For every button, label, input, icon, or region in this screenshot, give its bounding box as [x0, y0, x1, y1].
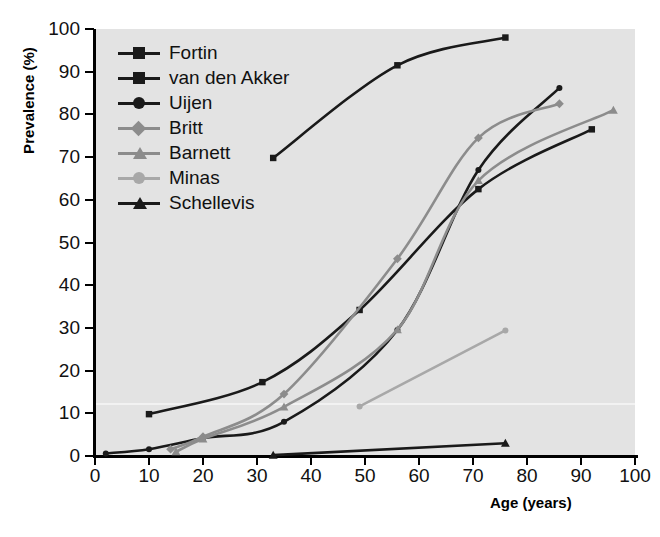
series-line [273, 443, 505, 455]
data-point-square [146, 411, 152, 417]
series-line [273, 38, 505, 158]
legend-swatch [118, 68, 160, 88]
chart-figure: 0102030405060708090100010203040506070809… [0, 0, 660, 537]
data-point-circle [357, 403, 363, 409]
series-schellevis [269, 439, 510, 459]
data-point-circle [475, 167, 481, 173]
legend-swatch [118, 118, 160, 138]
data-point-circle [146, 446, 152, 452]
data-point-circle [556, 85, 562, 91]
data-point-circle [281, 419, 287, 425]
legend-marker-square-icon [133, 72, 145, 84]
legend-marker-circle-icon [133, 172, 145, 184]
series-canvas [0, 0, 660, 537]
data-point-square [589, 126, 595, 132]
legend: Fortinvan den AkkerUijenBrittBarnettMina… [118, 40, 289, 215]
data-point-circle [502, 327, 508, 333]
legend-item-minas[interactable]: Minas [118, 165, 289, 190]
legend-marker-triangle-icon [133, 147, 147, 159]
series-minas [357, 327, 509, 409]
data-point-diamond [555, 99, 564, 108]
legend-swatch [118, 93, 160, 113]
legend-label: Schellevis [169, 193, 255, 212]
data-point-square [394, 62, 400, 68]
legend-swatch [118, 43, 160, 63]
data-point-triangle [609, 106, 618, 114]
legend-label: Fortin [169, 43, 218, 62]
legend-swatch [118, 143, 160, 163]
legend-item-fortin[interactable]: Fortin [118, 40, 289, 65]
legend-item-schellevis[interactable]: Schellevis [118, 190, 289, 215]
legend-swatch [118, 193, 160, 213]
legend-item-uijen[interactable]: Uijen [118, 90, 289, 115]
legend-swatch [118, 168, 160, 188]
legend-label: Minas [169, 168, 220, 187]
data-point-square [502, 34, 508, 40]
legend-marker-square-icon [133, 47, 145, 59]
data-point-square [259, 379, 265, 385]
data-point-circle [103, 450, 109, 456]
legend-item-britt[interactable]: Britt [118, 115, 289, 140]
legend-label: Uijen [169, 93, 212, 112]
legend-marker-triangle-icon [133, 197, 147, 209]
legend-marker-circle-icon [133, 97, 145, 109]
series-line [360, 330, 506, 406]
legend-item-van-den-akker[interactable]: van den Akker [118, 65, 289, 90]
data-point-square [475, 186, 481, 192]
legend-marker-diamond-icon [131, 120, 147, 136]
legend-label: van den Akker [169, 68, 289, 87]
legend-label: Barnett [169, 143, 230, 162]
legend-label: Britt [169, 118, 203, 137]
legend-item-barnett[interactable]: Barnett [118, 140, 289, 165]
